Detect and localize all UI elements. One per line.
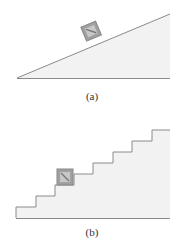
- figure-b-label: (b): [0, 226, 184, 238]
- incline-figure: [17, 14, 170, 79]
- figure-a-label: (a): [0, 90, 184, 102]
- diagram-canvas: [0, 0, 184, 241]
- block-on-incline: [81, 21, 102, 41]
- staircase-figure: [16, 130, 170, 219]
- block-on-stairs: [57, 169, 73, 185]
